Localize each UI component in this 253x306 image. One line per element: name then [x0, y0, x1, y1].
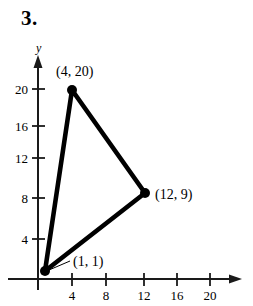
- vertex-label-12-9: (12, 9): [155, 187, 193, 203]
- y-tick-label-12: 12: [15, 151, 28, 166]
- x-tick-label-20: 20: [204, 288, 217, 303]
- y-axis-name-label: y: [35, 41, 42, 55]
- y-tick-label-16: 16: [15, 119, 29, 134]
- coordinate-plane-graphic: 4 8 12 16 20 4 8 12 16 20 y: [0, 0, 253, 306]
- y-tick-label-20: 20: [15, 82, 28, 97]
- x-axis-tick-labels-group: 4 8 12 16 20: [69, 288, 217, 303]
- y-axis-tick-labels-group: 4 8 12 16 20: [15, 82, 29, 247]
- vertex-label-1-1: (1, 1): [73, 254, 104, 270]
- figure-container: 3. 4 8 12 16 20: [0, 0, 253, 306]
- x-tick-label-12: 12: [138, 288, 151, 303]
- vertex-dot-4-20: [67, 85, 77, 95]
- x-axis-arrowhead: [229, 275, 242, 284]
- x-tick-label-8: 8: [103, 288, 110, 303]
- y-axis-arrowhead: [34, 55, 43, 68]
- vertex-dot-12-9: [140, 188, 150, 198]
- y-tick-label-8: 8: [22, 191, 29, 206]
- x-tick-label-16: 16: [171, 288, 185, 303]
- axes-group: [8, 55, 242, 290]
- triangle-shape: [45, 90, 145, 271]
- vertex-dot-1-1: [40, 266, 50, 276]
- vertex-label-4-20: (4, 20): [56, 64, 94, 80]
- y-tick-label-4: 4: [22, 232, 29, 247]
- x-tick-label-4: 4: [69, 288, 76, 303]
